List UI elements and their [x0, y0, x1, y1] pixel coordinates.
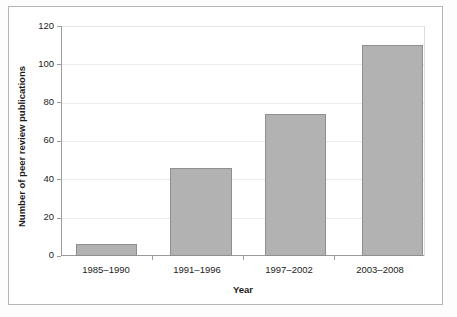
x-axis-title: Year	[61, 284, 425, 295]
x-tick-mark-3	[334, 256, 335, 260]
plot-area	[61, 26, 425, 256]
figure-container: 120 100 80 60 40 20 0 Number of peer rev…	[0, 0, 457, 317]
bar-1997-2002[interactable]	[265, 114, 326, 256]
y-axis-title: Number of peer review publications	[16, 47, 27, 247]
bar-chart: 120 100 80 60 40 20 0 Number of peer rev…	[0, 0, 457, 317]
y-tick-label-0: 0	[18, 250, 54, 260]
gridline-120	[62, 26, 424, 27]
bar-2003-2008[interactable]	[362, 45, 423, 256]
x-tick-label-2003-2008: 2003–2008	[325, 264, 435, 275]
bar-1985-1990[interactable]	[76, 244, 137, 256]
y-tick-label-120: 120	[18, 21, 54, 31]
x-tick-mark-2	[243, 256, 244, 260]
y-tick-mark-0	[57, 256, 61, 257]
bar-1991-1996[interactable]	[170, 168, 232, 256]
x-tick-mark-1	[152, 256, 153, 260]
